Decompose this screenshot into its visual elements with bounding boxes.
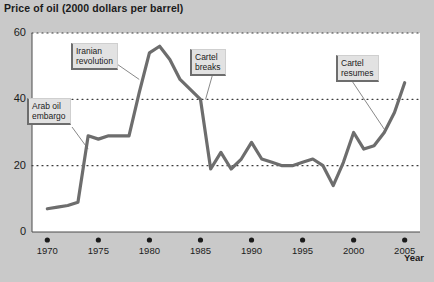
x-tick-label: 1990 <box>232 245 272 256</box>
annotation-callout: Arab oil embargo <box>27 98 71 125</box>
annotation-callout: Cartel resumes <box>336 55 379 82</box>
x-tick-label: 1975 <box>78 245 118 256</box>
x-tick-label: 1985 <box>180 245 220 256</box>
y-tick-label: 40 <box>4 92 26 104</box>
y-tick-label: 60 <box>4 26 26 38</box>
x-tick-label: 1970 <box>27 245 67 256</box>
x-tick-label: 2000 <box>334 245 374 256</box>
x-axis-title: Year <box>404 252 424 263</box>
x-tick-label: 1995 <box>283 245 323 256</box>
plot-svg <box>0 0 434 282</box>
x-tick-markers-group <box>45 237 408 242</box>
annotation-callout: Cartel breaks <box>190 49 226 76</box>
y-tick-label: 0 <box>4 225 26 237</box>
x-tick-label: 1980 <box>129 245 169 256</box>
annotation-callout: Iranian revolution <box>71 43 118 70</box>
y-tick-label: 20 <box>4 159 26 171</box>
chart-figure: Price of oil (2000 dollars per barrel) 0… <box>0 0 434 282</box>
